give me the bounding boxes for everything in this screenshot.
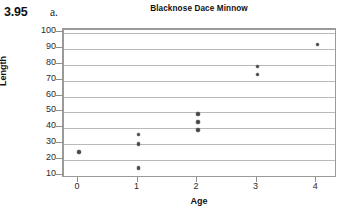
data-point (196, 128, 199, 131)
part-label: a. (50, 6, 58, 18)
data-point (137, 133, 140, 136)
y-tick-label-50: 50 (16, 104, 56, 114)
gridline-y-30 (64, 144, 335, 145)
plot-frame (62, 28, 336, 177)
gridline-y-90 (64, 49, 335, 50)
data-point (137, 166, 140, 169)
exercise-number: 3.95 (4, 5, 28, 19)
figure-panel: 3.95 a. Blacknose Dace Minnow Length 102… (0, 0, 346, 216)
x-tick-mark-2 (196, 177, 197, 182)
y-tick-label-10: 10 (16, 168, 56, 178)
y-tick-label-60: 60 (16, 89, 56, 99)
x-tick-mark-0 (77, 177, 78, 182)
y-axis-title: Length (0, 56, 8, 86)
y-tick-label-40: 40 (16, 120, 56, 130)
data-point (137, 142, 140, 145)
data-point (77, 150, 80, 153)
y-tick-label-80: 80 (16, 57, 56, 67)
gridline-y-70 (64, 81, 335, 82)
y-tick-label-30: 30 (16, 136, 56, 146)
gridline-y-100 (64, 33, 335, 34)
x-axis-title: Age (62, 196, 336, 206)
x-tick-label-2: 2 (181, 181, 211, 191)
x-tick-mark-1 (137, 177, 138, 182)
x-tick-label-3: 3 (241, 181, 271, 191)
x-tick-label-1: 1 (122, 181, 152, 191)
y-tick-label-70: 70 (16, 73, 56, 83)
data-point (256, 73, 259, 76)
x-tick-mark-4 (315, 177, 316, 182)
y-tick-label-90: 90 (16, 41, 56, 51)
gridline-y-60 (64, 97, 335, 98)
x-tick-label-4: 4 (300, 181, 330, 191)
gridline-y-80 (64, 65, 335, 66)
data-point (196, 120, 199, 123)
x-tick-mark-3 (256, 177, 257, 182)
data-point (196, 112, 199, 115)
chart-title: Blacknose Dace Minnow (62, 4, 336, 13)
y-tick-label-20: 20 (16, 152, 56, 162)
data-point (316, 43, 319, 46)
plot-area (64, 30, 335, 176)
x-tick-label-0: 0 (62, 181, 92, 191)
gridline-y-20 (64, 160, 335, 161)
y-tick-label-100: 100 (16, 25, 56, 35)
data-point (256, 65, 259, 68)
